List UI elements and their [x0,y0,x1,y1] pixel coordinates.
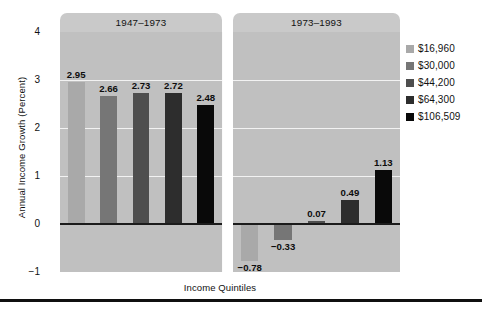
y-axis-tick-label: 0 [20,219,40,229]
plot-panel-1973-1993: −0.78−0.330.070.491.13 [233,32,400,272]
bar [274,224,291,240]
y-axis-tick-label: 3 [20,75,40,85]
panel-header-1: 1947–1973 [60,13,222,32]
bar-value-label: 0.49 [330,188,370,198]
legend-item-label: $106,509 [418,111,461,122]
zero-line [60,223,222,224]
legend-color-swatch [406,113,414,121]
zero-line [233,223,400,224]
bar [241,224,258,261]
bar-value-label: 1.13 [363,158,400,168]
legend-color-swatch [406,79,414,87]
gridline [233,80,400,81]
bar [68,82,85,224]
bar [100,96,117,224]
legend-item: $64,300 [406,91,482,108]
legend-item-label: $64,300 [418,94,455,105]
plot-panel-1947-1973: 2.952.662.732.722.48 [60,32,222,272]
bar-value-label: 0.07 [296,209,336,219]
legend-item-label: $16,960 [418,43,455,54]
legend-item: $44,200 [406,74,482,91]
bar-value-label: 2.72 [154,81,193,91]
legend-item: $30,000 [406,57,482,74]
bar-value-label: −0.78 [233,263,270,272]
bar-value-label: 2.95 [60,70,96,80]
legend-item: $16,960 [406,40,482,57]
x-axis-title: Income Quintiles [40,282,400,293]
legend-item-label: $44,200 [418,77,455,88]
bottom-divider [0,299,482,302]
bar-value-label: 2.48 [186,93,222,103]
gridline [233,128,400,129]
bar-value-label: −0.33 [263,242,303,252]
y-axis-tick-label: −1 [20,267,40,277]
y-axis-tick-label: 1 [20,171,40,181]
panel-divider [222,32,223,272]
legend-item-label: $30,000 [418,60,455,71]
bar [341,200,358,224]
legend-color-swatch [406,45,414,53]
legend-item: $106,509 [406,108,482,125]
legend-color-swatch [406,62,414,70]
bar [375,170,392,224]
bar [197,105,214,224]
y-axis-tick-label: 2 [20,123,40,133]
y-axis-tick-labels: 43210−1 [18,0,40,312]
legend: $16,960$30,000$44,200$64,300$106,509 [406,40,482,125]
chart-figure: Annual Income Growth (Percent) 43210−1 1… [0,0,482,312]
legend-color-swatch [406,96,414,104]
y-axis-tick-label: 4 [20,27,40,37]
bar [133,93,150,224]
bar [165,93,182,224]
panel-header-2: 1973–1993 [233,13,400,32]
